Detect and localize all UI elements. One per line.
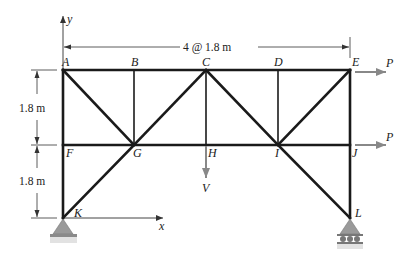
joint-label-G: G bbox=[133, 146, 142, 160]
truss-diagram: y x 4 @ 1.8 m 1.8 m 1.8 m bbox=[0, 0, 412, 259]
load-P-at-E-label: P bbox=[385, 56, 394, 70]
joint-label-E: E bbox=[351, 55, 360, 69]
joint-label-C: C bbox=[202, 55, 211, 69]
vertical-dimensions: 1.8 m 1.8 m bbox=[19, 70, 57, 218]
roller-support-base bbox=[337, 242, 363, 244]
joint-label-F: F bbox=[65, 146, 74, 160]
pin-support-base bbox=[50, 234, 77, 237]
roller-support-triangle bbox=[340, 219, 360, 234]
y-axis-label: y bbox=[66, 12, 73, 26]
joint-label-A: A bbox=[61, 55, 70, 69]
vertical-dimension-lower-label: 1.8 m bbox=[19, 175, 45, 187]
joint-label-I: I bbox=[274, 146, 280, 160]
member-E-I bbox=[278, 70, 350, 145]
pin-support-triangle bbox=[53, 219, 73, 234]
member-A-G bbox=[63, 70, 134, 145]
joint-label-B: B bbox=[131, 55, 139, 69]
joint-label-L: L bbox=[354, 206, 362, 220]
joint-label-J: J bbox=[352, 146, 358, 160]
load-P-at-J-label: P bbox=[385, 130, 394, 144]
joint-labels: A B C D E F G H I J K L bbox=[61, 55, 362, 220]
member-C-G bbox=[134, 70, 206, 145]
roller-wheel bbox=[354, 236, 360, 242]
member-I-L bbox=[278, 145, 350, 218]
joint-label-K: K bbox=[73, 206, 83, 220]
roller-wheel bbox=[340, 236, 346, 242]
joint-label-H: H bbox=[207, 146, 218, 160]
roller-support-L bbox=[337, 219, 363, 249]
truss-members bbox=[63, 70, 350, 218]
roller-wheel bbox=[347, 236, 353, 242]
vertical-dimension-upper-label: 1.8 m bbox=[19, 102, 45, 114]
horizontal-dimension-label: 4 @ 1.8 m bbox=[183, 41, 231, 54]
pin-support-K bbox=[50, 219, 77, 243]
load-V-at-H-label: V bbox=[202, 181, 211, 195]
joint-label-D: D bbox=[273, 55, 283, 69]
x-axis-label: x bbox=[158, 219, 165, 233]
member-C-I bbox=[206, 70, 278, 145]
